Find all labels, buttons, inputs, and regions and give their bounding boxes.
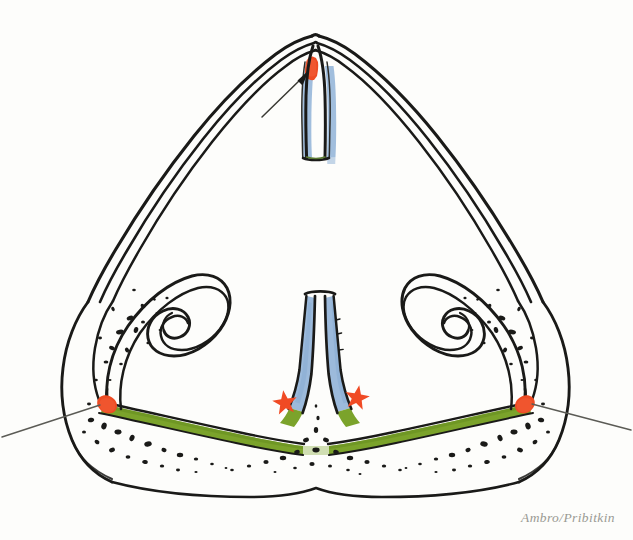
nasal-cavity-illustration — [0, 0, 633, 540]
figure-root: Ambro/Pribitkin — [0, 0, 633, 540]
canvas-background — [0, 0, 633, 540]
artist-signature: Ambro/Pribitkin — [521, 510, 615, 526]
